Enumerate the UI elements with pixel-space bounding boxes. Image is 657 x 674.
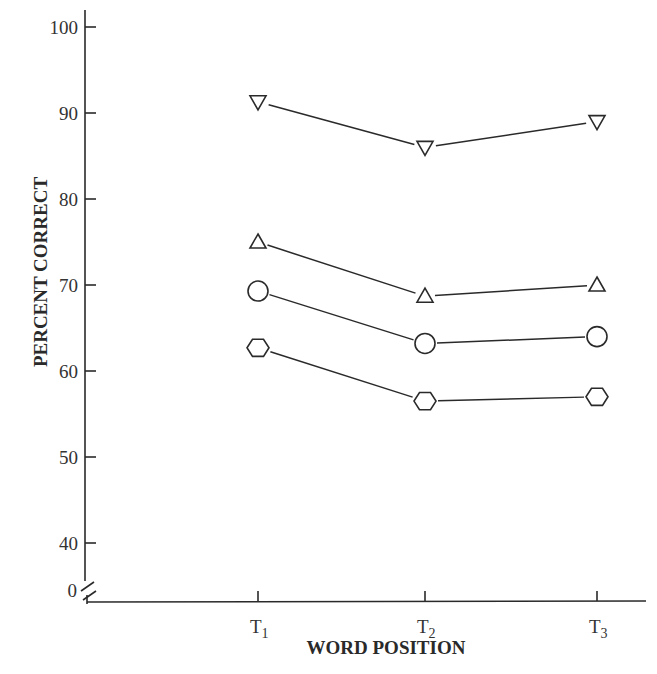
series-line-segment (438, 397, 584, 401)
y-tick-label: 80 (59, 189, 78, 210)
y-tick-label: 50 (59, 447, 78, 468)
cropped-caption-fragment (0, 664, 657, 674)
axes (81, 10, 646, 604)
triangle-marker-icon (417, 288, 433, 302)
circle-marker-icon (415, 333, 435, 353)
inverted-triangle-marker-icon (250, 96, 266, 110)
circle-marker-icon (587, 327, 607, 347)
inverted-triangle-marker-icon (589, 116, 605, 130)
circle-marker-icon (248, 281, 268, 301)
hexagon-marker-icon (586, 388, 608, 405)
y-tick-label: 0 (68, 580, 78, 601)
y-axis-break-mark (83, 591, 96, 600)
series-line-segment (436, 123, 586, 146)
y-tick-label: 60 (59, 361, 78, 382)
hexagon-marker-icon (247, 339, 269, 356)
series-line-segment (270, 352, 412, 397)
series-line-segment (437, 337, 585, 343)
x-axis-line (87, 601, 646, 602)
hexagon-marker-icon (414, 393, 436, 410)
series-line-segment (268, 245, 416, 293)
x-tick-label: T1 (250, 616, 269, 641)
series-triangle (250, 234, 605, 302)
x-ticks: T1T2T3 (250, 591, 608, 641)
series-line-segment (269, 295, 413, 340)
y-tick-label: 90 (59, 103, 78, 124)
triangle-marker-icon (250, 234, 266, 248)
line-chart: 0405060708090100 T1T2T3 PERCENT CORRECT … (0, 0, 657, 674)
y-axis-title: PERCENT CORRECT (30, 177, 51, 368)
y-axis-break-mark (81, 582, 94, 591)
triangle-marker-icon (589, 277, 605, 291)
y-tick-label: 40 (59, 533, 78, 554)
y-tick-label: 70 (59, 275, 78, 296)
x-tick-label: T3 (589, 616, 608, 641)
x-axis-title: WORD POSITION (307, 637, 466, 658)
series-group (247, 96, 608, 410)
series-inverted-triangle (250, 96, 605, 156)
series-line-segment (435, 286, 587, 296)
y-ticks: 0405060708090100 (50, 17, 97, 601)
y-tick-label: 100 (50, 17, 79, 38)
inverted-triangle-marker-icon (417, 141, 433, 155)
series-line-segment (269, 105, 415, 145)
